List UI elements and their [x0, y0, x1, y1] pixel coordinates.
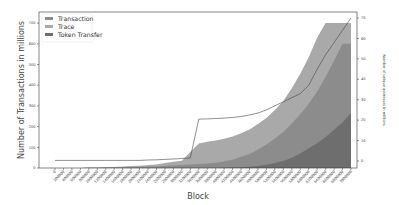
- area-chart: 0100200300400500600700 010203040506070 0…: [0, 0, 399, 205]
- y2-tick-label: 30: [361, 98, 366, 102]
- y-axis-title: Number of Transactions in millions: [17, 21, 26, 159]
- stacked-areas: [55, 23, 351, 168]
- legend-label-token-transfer: Token Transfer: [57, 31, 103, 38]
- y2-axis-title: Number of unique addresses in millions: [382, 54, 386, 125]
- y2-tick-label: 0: [361, 159, 364, 163]
- y2-tick-label: 50: [361, 57, 366, 61]
- y-tick-label: 100: [29, 146, 37, 150]
- y-tick-label: 300: [29, 104, 37, 108]
- y-tick-label: 500: [29, 63, 37, 67]
- legend-swatch-trace: [45, 25, 53, 28]
- x-tick-label: 0: [52, 169, 57, 174]
- y-tick-label: 600: [29, 42, 37, 46]
- right-y-axis: 010203040506070: [357, 16, 366, 163]
- left-y-axis: 0100200300400500600700: [29, 21, 39, 170]
- y2-tick-label: 60: [361, 37, 366, 41]
- x-axis: 0200000400000600000800000100000012000001…: [52, 168, 353, 184]
- legend-swatch-token-transfer: [45, 33, 53, 36]
- y-tick-label: 0: [33, 166, 36, 170]
- y-tick-label: 700: [29, 21, 37, 25]
- y2-tick-label: 20: [361, 118, 366, 122]
- y2-tick-label: 70: [361, 16, 366, 20]
- y-tick-label: 200: [29, 125, 37, 129]
- legend: Transaction Trace Token Transfer: [42, 14, 103, 42]
- legend-swatch-transaction: [45, 17, 53, 20]
- y2-tick-label: 40: [361, 77, 366, 81]
- y-tick-label: 400: [29, 83, 37, 87]
- legend-label-transaction: Transaction: [57, 15, 93, 22]
- legend-label-trace: Trace: [57, 23, 75, 30]
- y2-tick-label: 10: [361, 139, 366, 143]
- x-axis-title: Block: [187, 192, 209, 201]
